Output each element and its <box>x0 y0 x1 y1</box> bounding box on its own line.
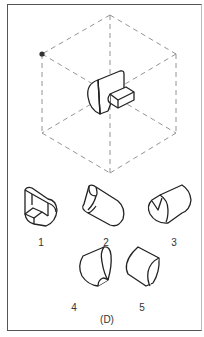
option-3-label: 3 <box>164 237 184 248</box>
option-5-shape <box>126 247 159 286</box>
option-2-label: 2 <box>96 237 116 248</box>
diagram-canvas <box>0 0 204 337</box>
option-3-shape <box>148 185 191 223</box>
option-4-label: 4 <box>64 302 84 313</box>
marker-dot <box>39 51 44 56</box>
option-4-shape <box>80 247 111 286</box>
option-5-label: 5 <box>132 302 152 313</box>
option-2-shape <box>83 185 124 226</box>
figure-caption: (D) <box>92 314 122 325</box>
option-1-shape <box>25 187 57 226</box>
option-1-label: 1 <box>31 237 51 248</box>
reference-solid <box>88 71 134 114</box>
